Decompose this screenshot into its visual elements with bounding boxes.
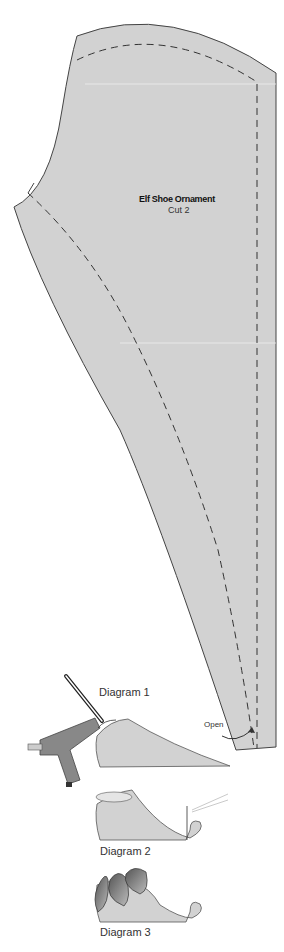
pattern-canvas <box>0 0 284 952</box>
pattern-piece <box>14 24 276 750</box>
diagram-3-illustration <box>95 868 201 922</box>
diagram-1-label: Diagram 1 <box>99 686 150 698</box>
diagram-2-illustration <box>96 790 228 840</box>
pattern-title: Elf Shoe Ornament <box>139 194 215 204</box>
diagram-2-label: Diagram 2 <box>100 845 151 857</box>
open-label: Open <box>204 720 224 729</box>
pattern-instruction: Cut 2 <box>168 205 190 215</box>
diagram-3-label: Diagram 3 <box>100 926 151 938</box>
